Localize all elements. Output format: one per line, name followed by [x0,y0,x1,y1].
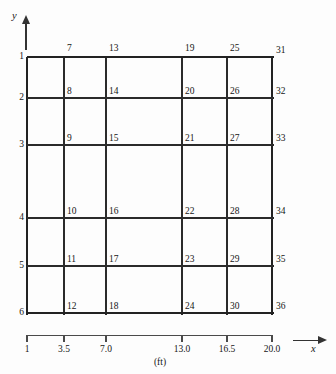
node-label-1: 1 [14,51,24,61]
node-label-3: 3 [14,139,24,149]
node-label-31: 31 [276,45,285,55]
grid-vline-5 [271,57,273,315]
grid-hline-2 [27,144,274,146]
node-label-8: 8 [67,86,72,96]
node-label-24: 24 [185,301,194,311]
scale-tick-2 [105,335,106,342]
scale-tick-label-16.5: 16.5 [219,344,236,354]
node-label-28: 28 [230,206,239,216]
grid-vline-2 [105,57,107,315]
node-label-22: 22 [185,206,194,216]
scale-tick-label-20.0: 20.0 [264,344,281,354]
node-label-12: 12 [67,301,76,311]
scale-tick-label-3.5: 3.5 [58,344,70,354]
x-axis-line [293,340,319,341]
grid-hline-5 [27,312,274,314]
node-label-18: 18 [109,301,118,311]
scale-tick-label-7.0: 7.0 [100,344,112,354]
node-label-7: 7 [67,43,72,53]
node-label-5: 5 [14,260,24,270]
node-label-23: 23 [185,254,194,264]
node-label-20: 20 [185,86,194,96]
scale-tick-label-1: 1 [25,344,30,354]
node-label-14: 14 [109,86,118,96]
scale-tick-label-13.0: 13.0 [174,344,191,354]
node-label-26: 26 [230,86,239,96]
node-label-25: 25 [230,43,239,53]
node-label-36: 36 [276,301,285,311]
node-label-2: 2 [14,92,24,102]
node-label-21: 21 [185,133,194,143]
scale-tick-4 [226,335,227,342]
scale-tick-0 [26,335,27,342]
x-axis-label: x [311,343,316,354]
y-axis-label: y [12,10,17,21]
node-label-35: 35 [276,254,285,264]
node-label-11: 11 [67,254,76,264]
node-label-17: 17 [109,254,118,264]
grid-hline-1 [27,97,274,99]
node-label-33: 33 [276,133,285,143]
scale-tick-3 [181,335,182,342]
node-label-19: 19 [185,43,194,53]
scale-tick-1 [63,335,64,342]
mesh-diagram: y x 123456789101112131415161718192021222… [0,0,336,374]
node-label-27: 27 [230,133,239,143]
grid-vline-1 [63,57,65,315]
scale-tick-5 [271,335,272,342]
node-label-15: 15 [109,133,118,143]
y-axis-line [25,23,26,50]
unit-label: (ft) [154,357,166,367]
node-label-9: 9 [67,133,72,143]
node-label-30: 30 [230,301,239,311]
grid-vline-0 [26,57,28,315]
node-label-10: 10 [67,206,76,216]
x-axis-arrowhead [318,336,327,344]
grid-vline-4 [226,57,228,315]
node-label-32: 32 [276,86,285,96]
node-label-29: 29 [230,254,239,264]
node-label-34: 34 [276,206,285,216]
node-label-6: 6 [14,307,24,317]
grid-hline-0 [27,56,274,58]
node-label-16: 16 [109,206,118,216]
node-label-4: 4 [14,212,24,222]
grid-hline-4 [27,265,274,267]
grid-hline-3 [27,217,274,219]
grid-vline-3 [181,57,183,315]
node-label-13: 13 [109,43,118,53]
